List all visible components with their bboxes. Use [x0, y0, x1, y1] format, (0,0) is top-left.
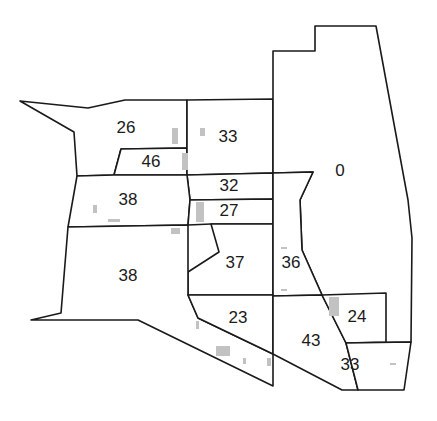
building-footprint	[172, 128, 178, 144]
parcel-label: 38	[119, 266, 138, 285]
building-footprint	[171, 228, 180, 234]
building-footprint	[196, 321, 199, 329]
building-footprint	[281, 289, 287, 291]
parcel-label: 32	[220, 176, 239, 195]
parcel-label: 38	[119, 190, 138, 209]
building-footprint	[200, 128, 205, 136]
building-footprint	[216, 346, 230, 356]
building-footprint	[243, 358, 246, 364]
building-footprint	[182, 153, 188, 170]
building-footprint	[196, 202, 204, 222]
parcel-label: 27	[220, 201, 239, 220]
parcel-label: 33	[341, 355, 360, 374]
building-footprint	[267, 358, 271, 366]
building-footprint	[329, 297, 339, 316]
parcel-label: 46	[142, 152, 161, 171]
parcel-label: 24	[348, 307, 367, 326]
parcels-layer	[20, 26, 412, 390]
parcel-label: 26	[117, 118, 136, 137]
parcel-map: 264633032382737383623432433	[0, 0, 437, 421]
building-footprint	[93, 205, 97, 213]
parcel-label: 0	[335, 161, 344, 180]
parcel-label: 23	[229, 308, 248, 327]
parcel-label: 33	[219, 127, 238, 146]
parcel-label: 37	[226, 253, 245, 272]
parcel-label: 43	[302, 331, 321, 350]
building-footprint	[390, 363, 396, 365]
building-footprint	[281, 247, 287, 249]
building-footprint	[108, 219, 120, 222]
parcel-label: 36	[282, 253, 301, 272]
